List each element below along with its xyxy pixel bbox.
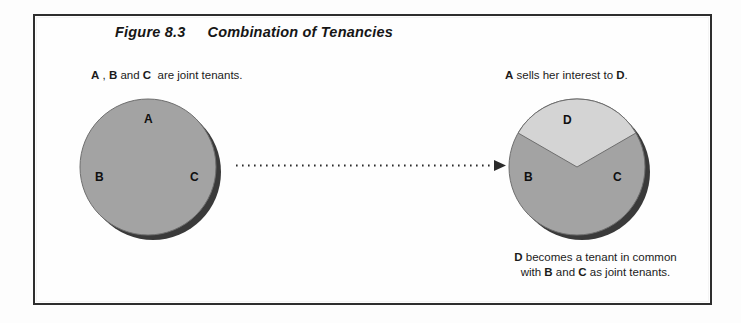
pie-before-label-b: B — [95, 171, 104, 183]
caption-after-line2: with B and C as joint tenants. — [488, 265, 703, 280]
caption-after-c: C — [578, 266, 586, 278]
caption-before-sep1: , — [99, 69, 109, 81]
figure-root: Figure 8.3Combination of Tenancies A , B… — [0, 0, 741, 323]
caption-after-and: and — [553, 266, 579, 278]
pie-after-label-c: C — [613, 171, 622, 183]
caption-before: A , B and C are joint tenants. — [91, 68, 243, 83]
figure-title-text: Combination of Tenancies — [208, 24, 394, 40]
figure-title: Figure 8.3Combination of Tenancies — [115, 24, 393, 40]
pie-after-label-b: B — [524, 171, 533, 183]
caption-before-tail: are joint tenants. — [151, 69, 242, 81]
pie-before-label-c: C — [190, 171, 199, 183]
caption-transfer-d: D — [616, 69, 624, 81]
caption-before-sep2: and — [117, 69, 143, 81]
caption-after-d: D — [514, 251, 522, 263]
caption-transfer: A sells her interest to D. — [505, 68, 628, 83]
caption-transfer-mid: sells her interest to — [513, 69, 616, 81]
pie-before-label-a: A — [144, 113, 153, 125]
pie-after-label-d: D — [563, 114, 572, 126]
caption-after-line1-text: becomes a tenant in common — [523, 251, 677, 263]
caption-after-with: with — [521, 266, 545, 278]
caption-after-line1: D becomes a tenant in common — [488, 250, 703, 265]
caption-transfer-end: . — [625, 69, 628, 81]
caption-after: D becomes a tenant in common with B and … — [488, 250, 703, 280]
caption-after-line2-text: as joint tenants. — [587, 266, 671, 278]
figure-number: Figure 8.3 — [115, 24, 186, 40]
caption-before-c: C — [143, 69, 151, 81]
caption-after-b: B — [544, 266, 552, 278]
caption-before-b: B — [109, 69, 117, 81]
